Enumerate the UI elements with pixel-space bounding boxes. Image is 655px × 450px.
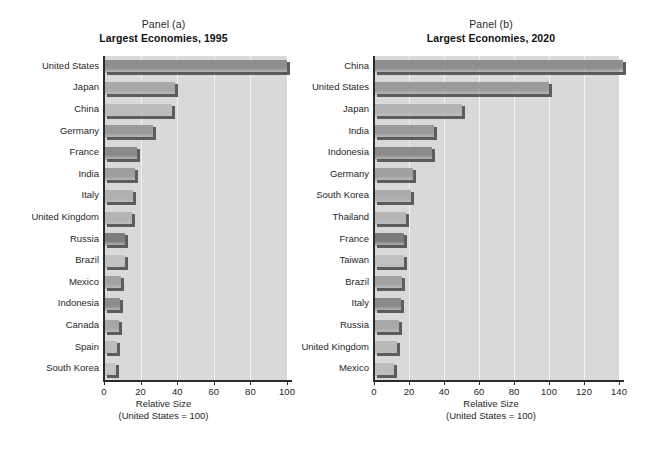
panel-b-x-tick: [549, 382, 550, 385]
panel-a-category-label: United States: [42, 60, 99, 71]
panel-b-y-axis: [373, 56, 375, 382]
panel-b-bar: [374, 146, 432, 160]
panel-a-category-label: Canada: [66, 319, 99, 330]
panel-a: Panel (a) Largest Economies, 1995 United…: [0, 0, 327, 450]
panel-a-bar: [104, 81, 175, 95]
panel-b-category-label: Brazil: [345, 276, 369, 287]
panel-a-axis-label-line1: Relative Size: [0, 398, 327, 410]
panel-b-x-tick-label: 120: [576, 386, 592, 397]
panel-a-category-label: South Korea: [46, 362, 99, 373]
panel-b-bar: [374, 81, 549, 95]
panel-b-bar: [374, 340, 397, 354]
panel-b-category-label: Mexico: [339, 362, 369, 373]
panel-b-category-label: Russia: [340, 319, 369, 330]
panel-b-x-tick: [584, 382, 585, 385]
panel-a-bar: [104, 189, 133, 203]
panel-a-category-label: Indonesia: [58, 297, 99, 308]
panel-b-bar: [374, 124, 434, 138]
panel-b-x-tick-label: 40: [439, 386, 450, 397]
panel-a-category-label: France: [69, 146, 99, 157]
panel-b-category-label: France: [339, 233, 369, 244]
panel-b-bar: [374, 103, 462, 117]
panel-b-category-label: China: [344, 60, 369, 71]
panel-a-category-label: United Kingdom: [31, 211, 99, 222]
panel-a-category-label: Germany: [60, 125, 99, 136]
panel-a-category-label: Spain: [75, 341, 99, 352]
panel-a-category-label: Japan: [73, 81, 99, 92]
panel-a-x-tick-label: 60: [209, 386, 220, 397]
panel-b: Panel (b) Largest Economies, 2020 ChinaU…: [327, 0, 655, 450]
panel-b-x-axis: [373, 380, 624, 382]
panel-a-category-label: Brazil: [75, 254, 99, 265]
panel-a-x-tick: [141, 382, 142, 385]
panel-b-category-label: Japan: [343, 103, 369, 114]
panel-a-x-tick-label: 80: [245, 386, 256, 397]
panel-a-axis-caption: Relative Size (United States = 100): [0, 398, 327, 422]
panel-b-category-label: United Kingdom: [301, 341, 369, 352]
panel-b-axis-label-line2: (United States = 100): [327, 410, 655, 422]
panel-b-x-tick: [479, 382, 480, 385]
panel-a-gridline: [250, 56, 251, 380]
panel-a-bar: [104, 362, 116, 376]
panel-a-x-tick-label: 100: [279, 386, 295, 397]
panel-a-category-label: China: [74, 103, 99, 114]
panel-a-x-tick-label: 40: [172, 386, 183, 397]
panel-b-bar: [374, 211, 406, 225]
panel-a-axis-label-line2: (United States = 100): [0, 410, 327, 422]
panel-b-x-tick-label: 60: [474, 386, 485, 397]
panel-b-x-tick-label: 140: [611, 386, 627, 397]
panel-a-category-label: Russia: [70, 233, 99, 244]
panel-b-bar: [374, 232, 404, 246]
panel-a-bar: [104, 103, 172, 117]
panel-a-x-axis: [103, 380, 292, 382]
panel-b-category-label: United States: [312, 81, 369, 92]
panel-b-bar: [374, 362, 394, 376]
panel-a-bar: [104, 167, 135, 181]
panel-a-bar: [104, 297, 120, 311]
panel-b-x-tick: [444, 382, 445, 385]
panel-b-category-label: Italy: [352, 297, 369, 308]
panel-a-x-tick-label: 20: [135, 386, 146, 397]
panel-a-bar: [104, 254, 125, 268]
panel-b-x-tick: [409, 382, 410, 385]
panel-b-category-label: India: [348, 125, 369, 136]
panel-b-category-label: Germany: [330, 168, 369, 179]
panel-b-category-label: Taiwan: [339, 254, 369, 265]
panel-a-y-axis: [103, 56, 105, 382]
panel-b-bar: [374, 189, 411, 203]
panel-b-bar: [374, 254, 404, 268]
panel-b-x-tick-label: 0: [371, 386, 376, 397]
panel-b-gridline: [584, 56, 585, 380]
figure-two-panel-bar-charts: Panel (a) Largest Economies, 1995 United…: [0, 0, 655, 450]
panel-b-gridline: [514, 56, 515, 380]
panel-a-x-tick-label: 0: [101, 386, 106, 397]
panel-b-axis-label-line1: Relative Size: [327, 398, 655, 410]
panel-b-gridline: [549, 56, 550, 380]
panel-b-axis-caption: Relative Size (United States = 100): [327, 398, 655, 422]
panel-b-x-tick-label: 80: [509, 386, 520, 397]
panel-b-category-label: Indonesia: [328, 146, 369, 157]
panel-a-bar: [104, 340, 117, 354]
panel-b-bar: [374, 167, 413, 181]
panel-a-bar: [104, 275, 121, 289]
panel-a-category-label: Mexico: [69, 276, 99, 287]
panel-a-x-tick: [104, 382, 105, 385]
panel-a-bar: [104, 319, 119, 333]
panel-b-x-tick: [374, 382, 375, 385]
panel-a-gridline: [214, 56, 215, 380]
panel-b-bar: [374, 319, 399, 333]
panel-a-x-tick: [287, 382, 288, 385]
panel-a-bar: [104, 211, 132, 225]
panel-b-category-label: South Korea: [316, 189, 369, 200]
panel-a-x-tick: [177, 382, 178, 385]
panel-b-bar: [374, 275, 402, 289]
panel-b-x-tick-label: 100: [541, 386, 557, 397]
panel-a-bar: [104, 124, 153, 138]
panel-b-bar: [374, 59, 623, 73]
panel-a-category-label: India: [78, 168, 99, 179]
panel-a-gridline: [177, 56, 178, 380]
panel-b-x-tick-label: 20: [404, 386, 415, 397]
panel-a-x-tick: [250, 382, 251, 385]
panel-b-category-label: Thailand: [333, 211, 369, 222]
panel-b-gridline: [479, 56, 480, 380]
